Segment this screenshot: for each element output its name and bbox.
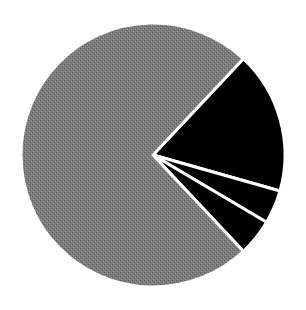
pie-slices bbox=[21, 23, 285, 287]
pie-chart bbox=[0, 0, 306, 310]
